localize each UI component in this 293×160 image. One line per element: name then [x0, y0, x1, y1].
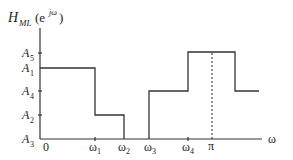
svg-text:A: A	[21, 84, 30, 98]
piecewise-frequency-response-diagram: H ML (e jω ) A 5 A 1 A 4 A 2 A 3 0 ω 1 ω…	[0, 0, 293, 160]
title-sub: ML	[18, 18, 32, 28]
svg-text:3: 3	[152, 147, 156, 156]
step-curve-left	[40, 68, 124, 139]
x-label-w2: ω 2	[118, 140, 130, 156]
svg-text:2: 2	[126, 147, 130, 156]
x-label-w1: ω 1	[89, 140, 101, 156]
svg-text:A: A	[21, 46, 30, 60]
svg-text:A: A	[21, 61, 30, 75]
title-arg-open: (e	[35, 10, 45, 25]
step-curve-right	[149, 52, 259, 139]
y-label-a4: A 4	[21, 84, 34, 101]
svg-text:A: A	[21, 108, 30, 122]
svg-text:2: 2	[30, 116, 34, 125]
svg-text:4: 4	[30, 92, 34, 101]
title-arg-sup: jω	[48, 8, 57, 17]
svg-text:ω: ω	[182, 140, 190, 154]
svg-text:ω: ω	[89, 140, 97, 154]
y-label-a1: A 1	[21, 61, 34, 78]
svg-text:5: 5	[30, 54, 34, 63]
y-label-a2: A 2	[21, 108, 34, 125]
svg-text:ω: ω	[144, 140, 152, 154]
title-h: H	[7, 10, 19, 25]
svg-text:ω: ω	[118, 140, 126, 154]
svg-text:4: 4	[190, 147, 194, 156]
title-arg-close: )	[59, 10, 63, 25]
svg-text:1: 1	[97, 147, 101, 156]
x-label-w3: ω 3	[144, 140, 156, 156]
y-label-a3: A 3	[21, 132, 34, 149]
x-label-w4: ω 4	[182, 140, 194, 156]
x-label-0: 0	[43, 140, 49, 154]
svg-text:1: 1	[30, 69, 34, 78]
x-axis-label-omega: ω	[268, 132, 276, 146]
x-label-pi: π	[208, 139, 214, 153]
svg-text:A: A	[21, 132, 30, 146]
svg-text:3: 3	[30, 140, 34, 149]
